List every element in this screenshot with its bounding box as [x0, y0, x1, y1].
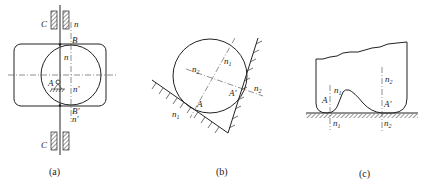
contact-dot-top [59, 43, 62, 46]
label-b-top: B [72, 35, 78, 45]
label-a-prime: A' [383, 99, 392, 109]
figure-canvas: C C n B n A n' B' n' (a) [0, 0, 426, 187]
panel-b: n2 n1 A A' n2 n1 (b) [152, 38, 263, 178]
label-a: A [196, 99, 203, 109]
label-n1-top: n1 [224, 56, 232, 67]
label-a-pivot: A [47, 78, 54, 88]
roller-circle [173, 39, 247, 113]
label-a: A [321, 95, 328, 105]
label-n-prime-bottom: n' [72, 114, 80, 124]
wall-lower-hatch [152, 83, 219, 133]
caption-b: (b) [216, 166, 228, 178]
label-n2-right: n2 [254, 83, 262, 94]
label-a-prime: A' [228, 88, 237, 98]
label-n2-top: n2 [385, 74, 393, 85]
label-n1-top: n1 [334, 85, 342, 96]
body-outline [316, 42, 407, 113]
wall-lower [152, 80, 228, 133]
label-c-top: C [41, 19, 48, 29]
label-n1-bottom: n1 [333, 118, 341, 129]
label-n2-bottom: n2 [384, 118, 392, 129]
panel-c: n1 A n1 n2 A' n2 (c) [306, 42, 418, 180]
contact-dot-bottom [59, 104, 62, 107]
label-n1-bottom: n1 [172, 109, 180, 120]
label-n2-left: n2 [192, 64, 200, 75]
caption-c: (c) [359, 168, 370, 180]
label-n-prime-mid: n' [73, 84, 81, 94]
label-n-mid: n [64, 52, 69, 62]
panel-a: C C n B n A n' B' n' (a) [8, 5, 116, 178]
ground-hatch [306, 114, 418, 118]
label-c-bottom: C [41, 140, 48, 150]
label-n-top: n [74, 19, 79, 29]
caption-a: (a) [49, 166, 60, 178]
